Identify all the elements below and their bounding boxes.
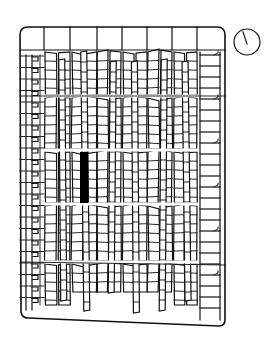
seating-grid bbox=[44, 49, 198, 313]
floor-plan-diagram bbox=[0, 0, 274, 339]
compass-icon bbox=[234, 29, 260, 55]
left-wall-units bbox=[20, 55, 44, 310]
right-wall-units bbox=[20, 51, 225, 320]
highlighted-block bbox=[80, 152, 88, 203]
floor-plan-svg bbox=[0, 0, 274, 339]
outer-frame bbox=[20, 27, 225, 326]
header-row bbox=[20, 27, 225, 50]
